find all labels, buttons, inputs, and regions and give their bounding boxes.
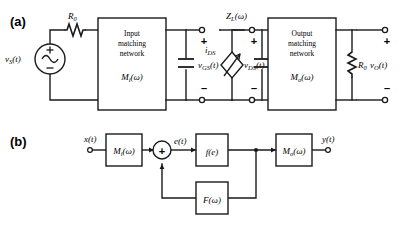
input-block-transfer: Mi(ω) — [120, 72, 143, 83]
output-block-line2: matching — [288, 39, 316, 48]
output-minus-sign: – — [384, 82, 390, 94]
output-terminal-positive — [382, 27, 387, 32]
voltage-source-symbol — [35, 44, 65, 74]
load-impedance-label: ZL(ω) — [226, 11, 247, 22]
error-signal-label: e(t) — [174, 136, 187, 146]
block-feedback-label: F(ω) — [202, 195, 221, 205]
input-block-line2: matching — [118, 39, 146, 48]
block-fe-label: f(e) — [206, 147, 219, 157]
input-block-line1: Input — [124, 29, 141, 38]
drain-plus-sign: + — [251, 35, 257, 47]
block-mi-label: Mi(ω) — [112, 146, 135, 157]
drain-terminal-positive — [249, 27, 254, 32]
input-block-line3: network — [120, 49, 145, 58]
panel-a-label: (a) — [10, 14, 26, 29]
output-block-transfer: Mo(ω) — [289, 72, 313, 83]
output-plus-sign: + — [384, 35, 390, 47]
figure-root: (a) R0 vS(t) — [0, 0, 405, 225]
output-voltage-label: vO(t) — [370, 60, 387, 71]
input-terminal-b — [88, 148, 93, 153]
gate-minus-sign: – — [201, 82, 207, 94]
summing-node-sign: + — [159, 145, 165, 157]
panel-b-label: (b) — [10, 134, 27, 149]
output-terminal-b — [326, 148, 331, 153]
output-signal-label: y(t) — [321, 134, 335, 144]
gate-terminal-negative — [199, 97, 204, 102]
output-block-line1: Output — [292, 29, 314, 38]
block-mo-label: Mo(ω) — [281, 146, 305, 157]
output-terminal-negative — [382, 97, 387, 102]
feedback-tap-junction — [254, 148, 258, 152]
gate-terminal-positive — [199, 27, 204, 32]
drain-terminal-negative — [249, 97, 254, 102]
drain-minus-sign: – — [251, 82, 257, 94]
source-label: vS(t) — [5, 54, 21, 65]
input-signal-label: x(t) — [83, 134, 97, 144]
output-block-line3: network — [290, 49, 315, 58]
